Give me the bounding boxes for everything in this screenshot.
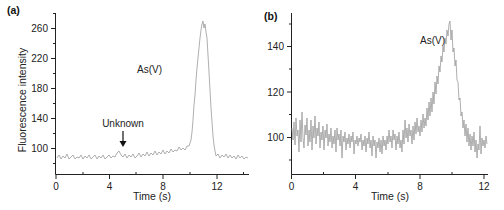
panel-b-y-tick-labels: 140 120 100	[267, 41, 284, 143]
panel-b-label: (b)	[264, 10, 277, 22]
panel-b-signal-trace	[292, 21, 487, 158]
svg-text:12: 12	[211, 181, 223, 192]
panel-b-y-ticks	[287, 24, 292, 160]
panel-a-y-tick-labels: 260 220 180 140 100	[31, 23, 48, 154]
svg-text:180: 180	[31, 83, 48, 94]
panel-b-x-ticks	[292, 172, 485, 179]
svg-text:8: 8	[417, 181, 423, 192]
svg-text:0: 0	[53, 181, 59, 192]
panel-a-x-ticks	[56, 172, 244, 179]
panel-a-signal-trace	[57, 21, 248, 159]
panel-b-peak-label: As(V)	[420, 35, 445, 46]
panel-a: (a) 260 220 180 140 100	[7, 4, 249, 202]
svg-text:120: 120	[267, 87, 284, 98]
arrow-down-icon	[120, 131, 127, 147]
svg-text:140: 140	[267, 41, 284, 52]
panel-a-peak-label: As(V)	[137, 64, 162, 75]
panel-b: (b) 140 120 100 0 4 8	[264, 10, 490, 202]
panel-a-y-ticks	[51, 14, 56, 164]
svg-text:12: 12	[478, 181, 490, 192]
svg-text:220: 220	[31, 53, 48, 64]
svg-text:140: 140	[31, 113, 48, 124]
svg-text:260: 260	[31, 23, 48, 34]
svg-text:0: 0	[289, 181, 295, 192]
figure: (a) 260 220 180 140 100	[0, 0, 504, 210]
svg-text:100: 100	[31, 143, 48, 154]
svg-text:4: 4	[353, 181, 359, 192]
panel-a-unknown-label: Unknown	[102, 118, 144, 129]
panel-b-x-axis-title: Time (s)	[371, 190, 409, 202]
panel-a-label: (a)	[7, 4, 20, 16]
svg-text:4: 4	[107, 181, 113, 192]
panel-a-y-axis-title: Fluorescence intensity	[16, 47, 28, 152]
svg-text:100: 100	[267, 132, 284, 143]
panel-a-x-axis-title: Time (s)	[133, 190, 171, 202]
